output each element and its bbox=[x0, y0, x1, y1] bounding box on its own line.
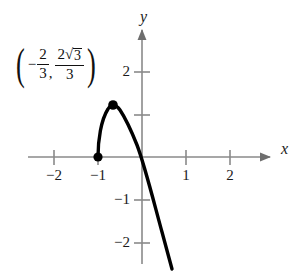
x-negative-sign: − bbox=[28, 57, 36, 72]
point-endpoint bbox=[93, 152, 102, 161]
x-coordinate-fraction: 2 3 bbox=[37, 47, 49, 82]
open-paren: ( bbox=[16, 47, 25, 82]
y-tick-label-2: 2 bbox=[112, 63, 130, 80]
y-numerator-coefficient: 2 bbox=[57, 46, 65, 62]
plot-canvas bbox=[0, 0, 297, 275]
x-tick-label--2: −2 bbox=[40, 167, 68, 184]
close-paren: ) bbox=[87, 47, 96, 82]
x-tick-label-2: 2 bbox=[220, 167, 240, 184]
y-denominator: 3 bbox=[64, 66, 76, 83]
graph-figure: x y −2 −1 1 2 2 −1 −2 ( − 2 3 , 2√3 3 ) bbox=[0, 0, 297, 275]
y-numerator: 2√3 bbox=[55, 47, 84, 66]
x-numerator: 2 bbox=[37, 47, 49, 65]
y-radicand: 3 bbox=[73, 48, 82, 64]
x-tick-label--1: −1 bbox=[84, 167, 112, 184]
x-denominator: 3 bbox=[37, 65, 49, 82]
y-tick-label--2: −2 bbox=[100, 234, 130, 251]
y-axis-label: y bbox=[140, 8, 147, 26]
coordinate-separator: , bbox=[49, 66, 53, 82]
y-coordinate-fraction: 2√3 3 bbox=[55, 47, 84, 82]
square-root-icon: √3 bbox=[65, 47, 82, 64]
coordinate-annotation: ( − 2 3 , 2√3 3 ) bbox=[13, 47, 99, 82]
point-maximum bbox=[108, 100, 118, 110]
x-axis-label: x bbox=[281, 140, 288, 158]
y-tick-label--1: −1 bbox=[100, 191, 130, 208]
x-tick-label-1: 1 bbox=[176, 167, 196, 184]
